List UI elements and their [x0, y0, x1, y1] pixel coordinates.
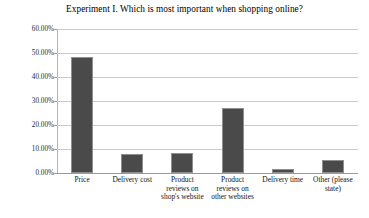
bar — [171, 153, 193, 173]
y-tick-label: 50.00% — [4, 49, 54, 57]
y-tick-label: 0.00% — [4, 169, 54, 177]
y-tick-mark — [54, 125, 57, 126]
bar — [272, 169, 294, 173]
y-tick-mark — [54, 29, 57, 30]
y-tick-label: 30.00% — [4, 97, 54, 105]
bar — [322, 160, 344, 173]
y-tick-mark — [54, 101, 57, 102]
x-category-label-line: state) — [308, 185, 358, 194]
bar — [71, 57, 93, 173]
x-category-label: Delivery cost — [107, 176, 157, 185]
plot-area — [57, 29, 358, 173]
x-category-label-line: Delivery time — [258, 176, 308, 185]
bar-chart-figure: Experiment I. Which is most important wh… — [0, 0, 369, 218]
gridline-40.00% — [57, 77, 358, 78]
y-tick-mark — [54, 173, 57, 174]
gridline-30.00% — [57, 101, 358, 102]
x-category-label-line: shop's website — [157, 193, 207, 202]
y-tick-label: 10.00% — [4, 145, 54, 153]
gridline-50.00% — [57, 53, 358, 54]
y-tick-label: 20.00% — [4, 121, 54, 129]
bar — [121, 154, 143, 173]
gridline-0.00% — [57, 173, 358, 174]
gridline-10.00% — [57, 149, 358, 150]
chart-title: Experiment I. Which is most important wh… — [0, 4, 369, 14]
x-category-label-line: other websites — [208, 193, 258, 202]
x-category-label: Delivery time — [258, 176, 308, 185]
y-tick-mark — [54, 149, 57, 150]
bar — [222, 108, 244, 173]
gridline-20.00% — [57, 125, 358, 126]
x-category-label-line: Delivery cost — [107, 176, 157, 185]
x-category-label: Other (pleasestate) — [308, 176, 358, 193]
y-tick-mark — [54, 53, 57, 54]
x-category-label: Productreviews onshop's website — [157, 176, 207, 202]
y-tick-mark — [54, 77, 57, 78]
y-tick-label: 60.00% — [4, 25, 54, 33]
y-tick-label: 40.00% — [4, 73, 54, 81]
x-category-label: Productreviews onother websites — [208, 176, 258, 202]
gridline-60.00% — [57, 29, 358, 30]
x-category-label: Price — [57, 176, 107, 185]
x-category-label-line: Price — [57, 176, 107, 185]
